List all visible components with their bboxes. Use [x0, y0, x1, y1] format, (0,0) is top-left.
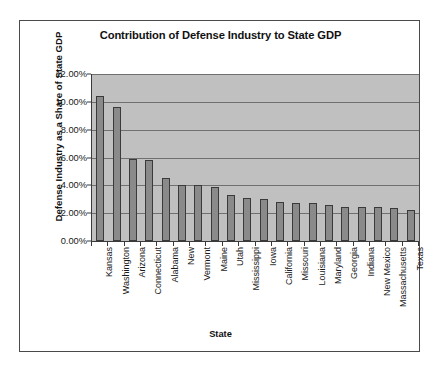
bar[interactable]: [129, 159, 137, 241]
y-axis-tick-label: 10.00%: [55, 97, 87, 107]
x-label-slot: Vermont: [189, 247, 205, 327]
x-axis-tick-mark: [271, 242, 272, 246]
bar-slot: [386, 74, 402, 241]
bar[interactable]: [374, 207, 382, 241]
x-axis-tick-mark: [173, 242, 174, 246]
x-label-slot: Maine: [205, 247, 221, 327]
bar-series: [92, 74, 419, 241]
y-axis-tick-label: 4.00%: [61, 180, 87, 190]
bar[interactable]: [341, 207, 349, 241]
x-axis-tick-mark: [385, 242, 386, 246]
x-axis-tick-mark: [418, 242, 419, 246]
bar-slot: [92, 74, 108, 241]
x-label-slot: Utah: [222, 247, 238, 327]
bar-slot: [108, 74, 124, 241]
x-axis-tick-mark: [353, 242, 354, 246]
x-axis-tick-mark: [238, 242, 239, 246]
bar-slot: [403, 74, 419, 241]
x-label-slot: Mississippi: [238, 247, 254, 327]
bar[interactable]: [292, 203, 300, 241]
bar[interactable]: [162, 178, 170, 241]
bar[interactable]: [309, 203, 317, 241]
x-axis-tick-mark: [107, 242, 108, 246]
bar-slot: [239, 74, 255, 241]
x-axis-tick-marks: [91, 242, 418, 246]
bar[interactable]: [194, 185, 202, 241]
x-label-slot: New: [173, 247, 189, 327]
bar-slot: [354, 74, 370, 241]
y-axis-tick-label: 0.00%: [61, 236, 87, 246]
chart-title: Contribution of Defense Industry to Stat…: [20, 29, 421, 41]
bar[interactable]: [113, 107, 121, 241]
bar-slot: [288, 74, 304, 241]
x-label-slot: California: [271, 247, 287, 327]
x-axis-tick-mark: [124, 242, 125, 246]
x-axis-tick-mark: [189, 242, 190, 246]
bar-slot: [272, 74, 288, 241]
bar[interactable]: [178, 185, 186, 241]
bar[interactable]: [96, 96, 104, 241]
bar[interactable]: [390, 208, 398, 241]
x-label-slot: Alabama: [156, 247, 172, 327]
bar-slot: [337, 74, 353, 241]
x-label-slot: Missouri: [287, 247, 303, 327]
bar[interactable]: [260, 199, 268, 241]
x-axis-tick-mark: [402, 242, 403, 246]
x-label-slot: Iowa: [254, 247, 270, 327]
bar-slot: [223, 74, 239, 241]
bar-slot: [206, 74, 222, 241]
bar[interactable]: [276, 202, 284, 241]
x-axis-tick-mark: [287, 242, 288, 246]
bar-slot: [157, 74, 173, 241]
x-axis-tick-mark: [205, 242, 206, 246]
x-label-slot: Washington: [107, 247, 123, 327]
bar-slot: [255, 74, 271, 241]
y-axis-tick-label: 2.00%: [61, 208, 87, 218]
bar-slot: [125, 74, 141, 241]
x-label-slot: Arizona: [124, 247, 140, 327]
x-label-slot: Texas: [402, 247, 418, 327]
bar[interactable]: [145, 160, 153, 241]
bar[interactable]: [358, 207, 366, 241]
chart-frame: Contribution of Defense Industry to Stat…: [19, 20, 420, 352]
bar-slot: [370, 74, 386, 241]
x-axis-tick-mark: [222, 242, 223, 246]
x-axis-tick-mark: [156, 242, 157, 246]
x-axis-tick-mark: [140, 242, 141, 246]
x-axis-tick-mark: [91, 242, 92, 246]
bar-slot: [304, 74, 320, 241]
x-label-slot: Kansas: [91, 247, 107, 327]
bar-slot: [174, 74, 190, 241]
y-axis-tick-label: 12.00%: [55, 69, 87, 79]
plot-area: [91, 74, 419, 242]
bar[interactable]: [243, 198, 251, 241]
x-label-slot: Massachusetts: [385, 247, 401, 327]
x-axis-title: State: [20, 329, 421, 339]
x-axis-tick-mark: [255, 242, 256, 246]
bar[interactable]: [325, 205, 333, 241]
x-label-slot: Louisiana: [303, 247, 319, 327]
x-label-slot: Georgia: [336, 247, 352, 327]
x-axis-category-label: Texas: [415, 247, 425, 271]
bar-slot: [190, 74, 206, 241]
bar-slot: [321, 74, 337, 241]
x-label-slot: New Mexico: [369, 247, 385, 327]
x-label-slot: Indiana: [353, 247, 369, 327]
x-axis-tick-mark: [304, 242, 305, 246]
x-label-slot: Maryland: [320, 247, 336, 327]
x-axis-tick-mark: [369, 242, 370, 246]
bar[interactable]: [227, 195, 235, 241]
bar[interactable]: [211, 187, 219, 241]
y-axis-tick-labels: 12.00%10.00%8.00%6.00%4.00%2.00%0.00%: [44, 74, 91, 241]
bar-slot: [141, 74, 157, 241]
x-axis-category-labels: KansasWashingtonArizonaConnecticutAlabam…: [91, 247, 418, 327]
y-axis-tick-label: 6.00%: [61, 153, 87, 163]
x-axis-tick-mark: [336, 242, 337, 246]
x-label-slot: Connecticut: [140, 247, 156, 327]
x-axis-tick-mark: [320, 242, 321, 246]
bar[interactable]: [407, 210, 415, 241]
y-axis-tick-label: 8.00%: [61, 125, 87, 135]
